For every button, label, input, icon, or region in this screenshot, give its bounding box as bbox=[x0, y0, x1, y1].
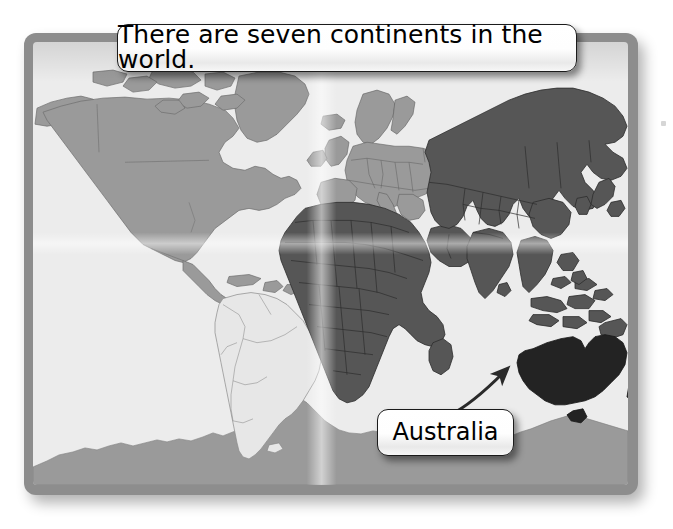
title-callout-text: There are seven continents in the world. bbox=[118, 22, 576, 74]
world-map-canvas bbox=[33, 42, 628, 485]
australia-label-text: Australia bbox=[392, 420, 498, 446]
continent-antarctica bbox=[33, 399, 628, 485]
continent-australia bbox=[517, 335, 628, 423]
paper-speck bbox=[661, 121, 666, 126]
title-callout-box: There are seven continents in the world. bbox=[117, 24, 577, 72]
australia-label-box: Australia bbox=[377, 409, 514, 456]
continent-europe bbox=[307, 90, 447, 222]
world-map-svg bbox=[33, 42, 628, 485]
world-map-frame bbox=[24, 33, 638, 495]
continent-asia bbox=[425, 88, 627, 339]
